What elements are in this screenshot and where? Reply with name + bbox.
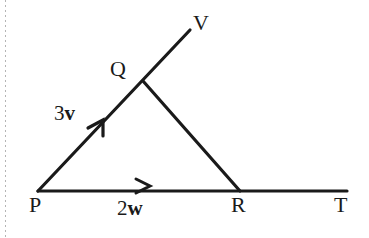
vertex-label-v: V: [193, 12, 209, 34]
vertex-label-r: R: [231, 194, 246, 216]
vertex-label-q: Q: [110, 58, 126, 80]
geometry-figure: P Q R T V 3v 2w: [0, 0, 369, 238]
vector-label-2w: 2w: [117, 198, 143, 219]
vector-3v-symbol: v: [65, 101, 76, 125]
vector-2w-scalar: 2: [117, 196, 128, 220]
vertex-label-t: T: [334, 194, 347, 216]
segment-q-to-r: [143, 81, 240, 191]
vector-2w-symbol: w: [128, 196, 143, 220]
vertex-label-p: P: [29, 194, 41, 216]
vector-label-3v: 3v: [54, 103, 75, 124]
vector-3v-scalar: 3: [54, 101, 65, 125]
